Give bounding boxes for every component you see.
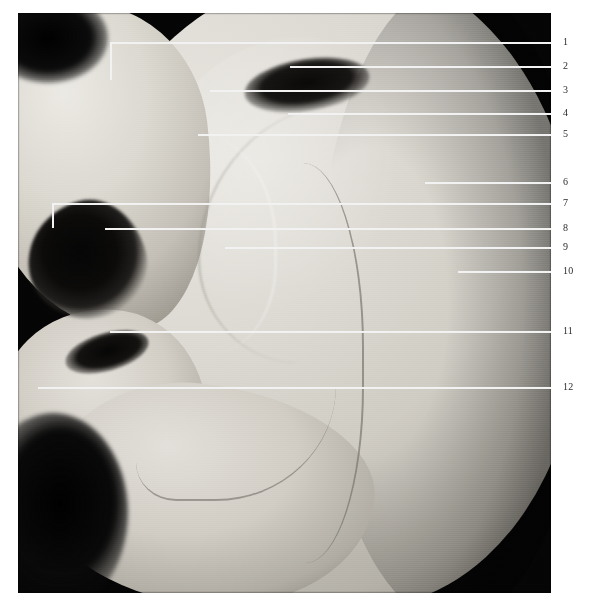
label-number-2: 2 xyxy=(563,61,568,71)
leader-line-10 xyxy=(458,271,551,273)
leader-line-5 xyxy=(198,134,551,136)
leader-line-2 xyxy=(290,66,551,68)
label-number-9: 9 xyxy=(563,242,568,252)
leader-bracket-7 xyxy=(52,203,54,228)
label-number-4: 4 xyxy=(563,108,568,118)
skull-photograph xyxy=(18,13,551,593)
leader-line-12 xyxy=(38,387,551,389)
label-number-11: 11 xyxy=(563,326,573,336)
leader-line-11 xyxy=(110,331,551,333)
label-number-10: 10 xyxy=(563,266,573,276)
leader-line-3 xyxy=(210,90,551,92)
label-number-12: 12 xyxy=(563,382,573,392)
plate-inner-border xyxy=(18,13,551,593)
leader-bracket-1 xyxy=(110,42,112,80)
leader-line-6 xyxy=(425,182,551,184)
label-number-1: 1 xyxy=(563,37,568,47)
label-number-8: 8 xyxy=(563,223,568,233)
label-number-6: 6 xyxy=(563,177,568,187)
leader-line-9 xyxy=(225,247,551,249)
label-number-5: 5 xyxy=(563,129,568,139)
leader-line-1 xyxy=(110,42,551,44)
label-number-3: 3 xyxy=(563,85,568,95)
anatomical-figure: 123456789101112 xyxy=(0,0,596,608)
leader-line-8 xyxy=(105,228,551,230)
leader-line-7 xyxy=(52,203,551,205)
label-number-7: 7 xyxy=(563,198,568,208)
leader-line-4 xyxy=(288,113,551,115)
